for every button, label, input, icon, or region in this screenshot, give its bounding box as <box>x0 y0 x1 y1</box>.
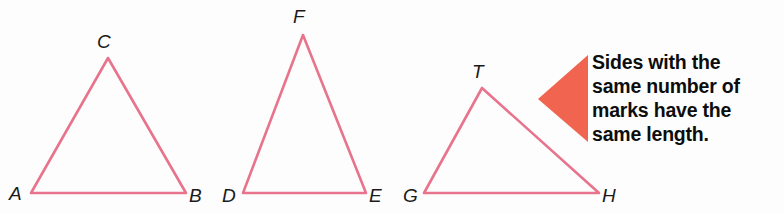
vertex-label-f: F <box>293 6 306 27</box>
vertex-label-a: A <box>8 183 22 204</box>
triangle-def-outline <box>243 35 366 193</box>
vertex-label-d: D <box>222 185 236 206</box>
vertex-label-g: G <box>403 185 418 206</box>
callout-line-4: same length. <box>592 122 782 146</box>
geometry-figure: A B C D E F G H T Sides with the same nu… <box>0 0 784 213</box>
triangle-def: D E F <box>222 6 382 206</box>
callout-line-1: Sides with the <box>592 50 782 74</box>
vertex-label-e: E <box>369 185 382 206</box>
callout-text-block: Sides with the same number of marks have… <box>592 50 782 146</box>
vertex-label-b: B <box>189 185 202 206</box>
triangle-abc-outline <box>31 58 186 193</box>
triangle-abc: A B C <box>8 31 202 206</box>
callout-line-2: same number of <box>592 74 782 98</box>
vertex-label-h: H <box>602 185 616 206</box>
callout-pointer-icon <box>538 55 588 142</box>
vertex-label-t: T <box>472 61 485 82</box>
vertex-label-c: C <box>97 31 111 52</box>
callout-line-3: marks have the <box>592 98 782 122</box>
